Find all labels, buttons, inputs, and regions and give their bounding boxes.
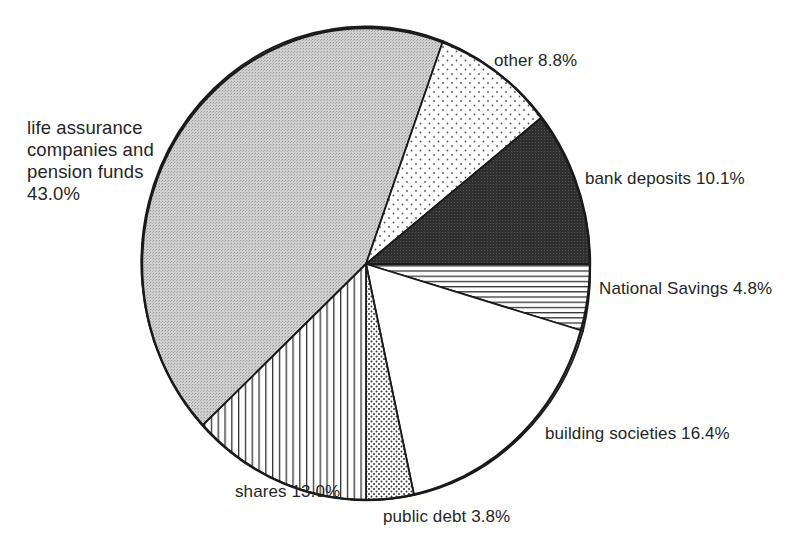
label-shares: shares 13.0% <box>235 481 340 502</box>
label-other: other 8.8% <box>494 50 577 71</box>
label-national-savings: National Savings 4.8% <box>599 278 779 299</box>
label-building-societies: building societies 16.4% <box>545 423 730 444</box>
label-public-debt: public debt 3.8% <box>383 506 510 527</box>
label-life-assurance: life assurance companies and pension fun… <box>27 117 187 205</box>
pie-chart <box>0 0 799 547</box>
label-bank-deposits: bank deposits 10.1% <box>585 168 745 189</box>
